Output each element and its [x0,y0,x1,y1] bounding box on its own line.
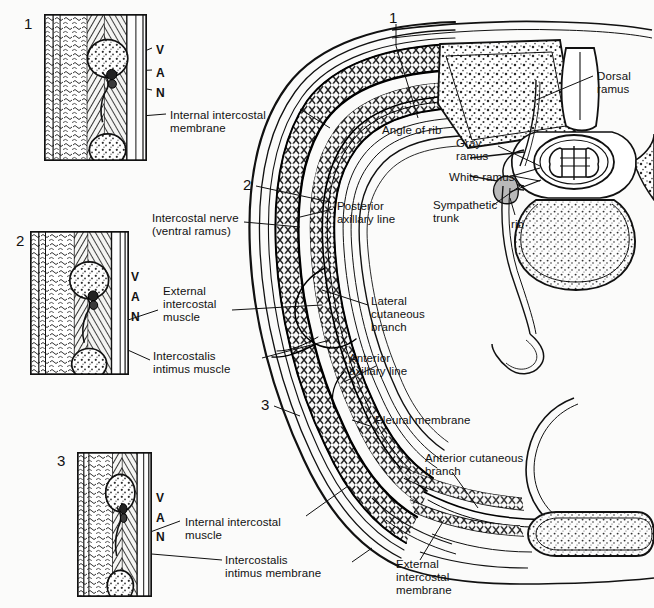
label-anterior-axillary: Anterior axillary line [349,352,407,378]
label-angle-of-rib: Angle of rib [382,124,441,137]
inset-2-vein-key: V [131,271,139,283]
marker-3: 3 [261,397,269,412]
inset-3-vein-key: V [156,492,164,504]
inset-1-frame [44,14,147,161]
label-intercostal-nerve: Intercostal nerve (ventral ramus) [152,212,239,238]
inset-3-frame [77,452,152,597]
inset-3-nerve-key: N [156,531,165,543]
label-sympathetic-trunk: Sympathetic trunk [433,199,497,225]
inset-1-artery-key: A [156,67,165,79]
label-rib: rib [511,218,524,231]
label-external-intercostal-membrane: External intercostal membrane [396,558,452,597]
inset-3-label-internal-intercostal-muscle: Internal intercostal muscle [185,516,281,542]
inset-1-nerve-key: N [156,87,165,99]
label-lateral-cutaneous: Lateral cutaneous branch [371,295,425,334]
label-white-ramus: White ramus [449,171,515,184]
inset-1-art [45,15,146,160]
inset-1-number: 1 [24,16,32,31]
label-anterior-cutaneous: Anterior cutaneous branch [425,452,523,478]
inset-2-nerve-key: N [131,311,140,323]
label-dorsal-ramus: Dorsal ramus [597,70,631,96]
inset-1-vein-key: V [156,44,164,56]
marker-1: 1 [389,10,397,25]
inset-3-art [78,453,151,596]
inset-2-frame [30,231,129,375]
inset-3-artery-key: A [156,512,165,524]
inset-1-label-internal-intercostal-membrane: Internal intercostal membrane [170,109,266,135]
marker-2: 2 [243,177,251,192]
inset-2-label-external-intercostal-muscle: External intercostal muscle [163,285,217,324]
label-posterior-axillary: Posterior axillary line [337,200,395,226]
inset-2-number: 2 [16,233,24,248]
inset-2-artery-key: A [131,291,140,303]
label-gray-ramus: Gray ramus [456,137,488,163]
inset-2-art [31,232,128,374]
anatomy-figure: 1231VANInternal intercostal membrane2VAN… [0,0,654,608]
inset-2-label-intercostalis-intimus-muscle: Intercostalis intimus muscle [153,350,230,376]
inset-3-number: 3 [57,453,65,468]
label-pleural-membrane: Pleural membrane [375,414,471,427]
inset-3-label-intercostalis-intimus-membrane: Intercostalis intimus membrane [225,554,321,580]
